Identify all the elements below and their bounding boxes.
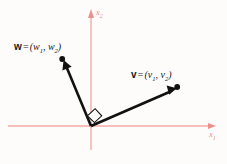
y-axis-label-sub: 2 (100, 13, 103, 19)
vector-w-close-paren: ) (58, 41, 61, 52)
vector-w-equals: = (22, 41, 30, 52)
vector-v-label: v=(v1, v2) (131, 70, 172, 83)
vector-w-comp1: w (33, 41, 40, 52)
vector-w-line (67, 67, 92, 126)
vector-w-name: w (14, 41, 22, 52)
vector-w-comp2: w (48, 41, 55, 52)
vector-v-line (91, 92, 171, 127)
vector-v-endpoint-dot (174, 84, 180, 90)
vector-diagram-canvas (0, 0, 227, 164)
y-axis-arrowhead (88, 9, 94, 18)
vector-v-name: v (131, 69, 137, 80)
vector-w-label: w=(w1, w2) (14, 42, 61, 55)
y-axis-label: x2 (96, 8, 103, 19)
x-axis-label-sub: 1 (213, 135, 216, 141)
x-axis-label: x1 (209, 130, 216, 141)
vector-w-endpoint-dot (59, 56, 65, 62)
vector-w-comma: , (43, 41, 46, 52)
vector-v-comma: , (155, 69, 158, 80)
vector-v-close-paren: ) (168, 69, 171, 80)
